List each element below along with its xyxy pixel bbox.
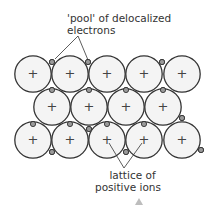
- plus-sign: +: [177, 132, 188, 147]
- plus-sign: +: [28, 66, 39, 81]
- label-delocalized-electrons: 'pool' of delocalized electrons: [67, 12, 171, 36]
- electron: [123, 149, 128, 154]
- arrow-up-icon: [135, 198, 143, 205]
- electron: [49, 149, 54, 154]
- electron: [49, 59, 54, 64]
- label-line: lattice of: [104, 169, 161, 181]
- label-positive-ion-lattice: lattice of positive ions: [98, 169, 161, 193]
- electron: [86, 87, 91, 92]
- label-line: electrons: [67, 24, 171, 36]
- plus-sign: +: [102, 132, 113, 147]
- plus-sign: +: [177, 66, 188, 81]
- plus-sign: +: [65, 132, 76, 147]
- plus-sign: +: [84, 99, 95, 114]
- plus-sign: +: [102, 66, 113, 81]
- plus-sign: +: [47, 99, 58, 114]
- electron: [104, 121, 109, 126]
- plus-sign: +: [158, 99, 169, 114]
- electron: [159, 59, 164, 64]
- electron: [30, 121, 35, 126]
- electron: [123, 87, 128, 92]
- plus-sign: +: [121, 99, 132, 114]
- electron: [67, 121, 72, 126]
- label-line: 'pool' of delocalized: [67, 12, 171, 24]
- electron: [198, 147, 203, 152]
- label-line: positive ions: [95, 181, 161, 193]
- plus-sign: +: [28, 132, 39, 147]
- electron: [141, 121, 146, 126]
- plus-sign: +: [139, 66, 150, 81]
- plus-sign: +: [139, 132, 150, 147]
- electron: [86, 126, 91, 131]
- electron: [160, 87, 165, 92]
- electron: [85, 59, 90, 64]
- electron: [179, 115, 184, 120]
- plus-sign: +: [65, 66, 76, 81]
- electron: [49, 87, 54, 92]
